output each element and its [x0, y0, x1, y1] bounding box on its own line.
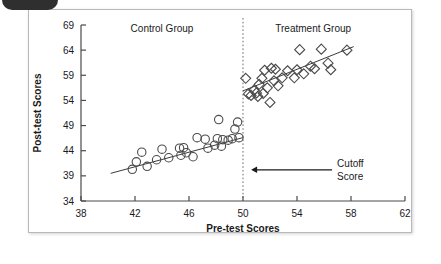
data-point-diamond — [241, 73, 251, 83]
x-axis-title: Pre-test Scores — [206, 223, 280, 232]
data-point-diamond — [265, 97, 275, 107]
scatter-plot: 384246505458623439444954596469Pre-test S… — [29, 10, 411, 232]
data-point-diamond — [342, 45, 352, 55]
data-point-circle — [158, 145, 166, 153]
cutoff-label-line2: Score — [337, 171, 364, 182]
x-tick-label: 46 — [183, 208, 195, 219]
data-point-circle — [233, 118, 241, 126]
y-tick-label: 59 — [63, 70, 75, 81]
data-point-circle — [201, 135, 209, 143]
x-tick-label: 62 — [399, 208, 411, 219]
data-point-circle — [193, 133, 201, 141]
data-point-diamond — [299, 69, 309, 79]
x-tick-label: 58 — [345, 208, 357, 219]
cutoff-arrow-head — [251, 167, 257, 173]
y-tick-label: 69 — [63, 20, 75, 31]
chart-frame: 384246505458623439444954596469Pre-test S… — [28, 9, 412, 233]
corner-badge — [2, 0, 58, 10]
y-tick-label: 49 — [63, 120, 75, 131]
y-tick-label: 39 — [63, 170, 75, 181]
x-tick-label: 38 — [75, 208, 87, 219]
x-tick-label: 50 — [237, 208, 249, 219]
data-point-circle — [132, 158, 140, 166]
cutoff-label-line1: Cutoff — [337, 158, 364, 169]
x-tick-label: 42 — [129, 208, 141, 219]
group-label: Treatment Group — [275, 23, 351, 34]
data-point-diamond — [316, 44, 326, 54]
figure-container: 384246505458623439444954596469Pre-test S… — [0, 0, 441, 264]
data-point-circle — [215, 115, 223, 123]
x-tick-label: 54 — [291, 208, 303, 219]
data-point-circle — [138, 148, 146, 156]
group-label: Control Group — [131, 23, 194, 34]
data-point-diamond — [295, 45, 305, 55]
y-axis-title: Post-test Scores — [32, 73, 43, 152]
y-tick-label: 54 — [63, 95, 75, 106]
y-tick-label: 64 — [63, 45, 75, 56]
y-tick-label: 44 — [63, 145, 75, 156]
data-point-circle — [189, 153, 197, 161]
y-tick-label: 34 — [63, 196, 75, 207]
